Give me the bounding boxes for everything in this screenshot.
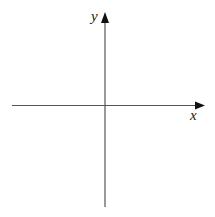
x-axis-label: x	[190, 108, 197, 123]
coordinate-plane	[0, 0, 215, 217]
y-axis-label: y	[91, 9, 98, 24]
y-axis-arrow-icon	[101, 12, 109, 23]
